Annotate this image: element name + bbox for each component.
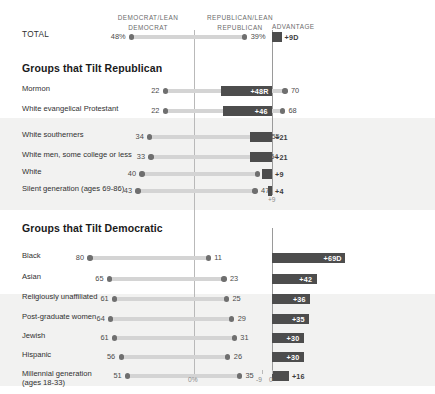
advantage-label: +9 <box>275 170 284 179</box>
republican-dot[interactable] <box>252 188 257 193</box>
democrat-dot[interactable] <box>135 188 140 193</box>
republican-value: 25 <box>233 294 241 303</box>
chart-row: Jewish6131+30 <box>0 331 435 345</box>
democrat-value: 80 <box>46 253 84 262</box>
chart-row: Millennial generation(ages 18-33)5135+16 <box>0 369 435 383</box>
republican-value: 23 <box>230 274 238 283</box>
democrat-value: 61 <box>71 333 109 342</box>
republican-value: 39% <box>251 32 266 41</box>
row-label: Mormon <box>22 84 50 93</box>
democrat-value: 43 <box>94 186 132 195</box>
republican-dot[interactable] <box>232 335 237 340</box>
advantage-label: +36 <box>293 295 306 304</box>
republican-value: 26 <box>234 352 242 361</box>
advantage-label: +9D <box>285 33 299 42</box>
democrat-dot[interactable] <box>119 354 124 359</box>
dumbbell-track <box>115 297 227 301</box>
republican-value: 70 <box>291 86 299 95</box>
republican-dot[interactable] <box>221 276 226 281</box>
dumbbell-track <box>150 135 266 139</box>
advantage-label: +46 <box>255 107 268 116</box>
chart-row: Asian6523+42 <box>0 272 435 286</box>
row-label: TOTAL <box>22 30 49 39</box>
row-label: Asian <box>22 272 41 281</box>
advantage-label: +42 <box>299 275 312 284</box>
democrat-value: 34 <box>106 132 144 141</box>
republican-dot[interactable] <box>280 108 285 113</box>
tick-label-advantage-zero: 0 <box>269 376 273 383</box>
chart-row: Religiously unaffiliated6125+36 <box>0 292 435 306</box>
democrat-dot[interactable] <box>87 255 92 260</box>
advantage-bar[interactable] <box>272 32 282 42</box>
dumbbell-track <box>128 374 240 378</box>
republican-value: 11 <box>214 253 222 262</box>
chart-row: White evangelical Protestant2268+46 <box>0 104 435 118</box>
advantage-bar[interactable] <box>272 371 289 381</box>
advantage-bar[interactable] <box>262 169 272 179</box>
row-label: White <box>22 167 41 176</box>
dumbbell-track <box>110 277 224 281</box>
chart-row: Post-graduate women6429+35 <box>0 312 435 326</box>
democrat-value: 40 <box>98 169 136 178</box>
democrat-dot[interactable] <box>139 171 144 176</box>
democrat-value: 64 <box>67 314 105 323</box>
republican-dot[interactable] <box>237 373 242 378</box>
chart-row: White southerners3455+21 <box>0 130 435 144</box>
democrat-value: 33 <box>107 152 145 161</box>
tickmark-advantage-zero <box>272 370 273 374</box>
row-label: Hispanic <box>22 350 51 359</box>
advantage-label: +4 <box>275 187 284 196</box>
republican-value: 29 <box>238 314 246 323</box>
republican-dot[interactable] <box>282 88 287 93</box>
democrat-dot[interactable] <box>112 296 117 301</box>
democrat-dot[interactable] <box>125 373 130 378</box>
democrat-dot[interactable] <box>107 276 112 281</box>
republican-value: 68 <box>288 106 296 115</box>
republican-dot[interactable] <box>224 296 229 301</box>
democrat-dot[interactable] <box>163 88 168 93</box>
advantage-label: +30 <box>287 353 300 362</box>
dumbbell-track <box>90 256 208 260</box>
row-label: White evangelical Protestant <box>22 104 118 113</box>
republican-dot[interactable] <box>206 255 211 260</box>
chart-row: Mormon2270+48R <box>0 84 435 98</box>
advantage-bar[interactable] <box>250 152 272 162</box>
advantage-label: +16 <box>292 372 305 381</box>
advantage-bar[interactable] <box>268 186 272 196</box>
democrat-value: 22 <box>121 86 159 95</box>
democrat-dot[interactable] <box>163 108 168 113</box>
dumbbell-track <box>151 155 264 159</box>
dumbbell-track <box>142 172 258 176</box>
advantage-bar[interactable] <box>250 132 272 142</box>
democrat-value: 65 <box>66 274 104 283</box>
democrat-value: 61 <box>71 294 109 303</box>
dumbbell-track <box>132 35 245 39</box>
row-label: Jewish <box>22 331 45 340</box>
row-label-sub: (ages 18-33) <box>22 378 92 387</box>
tick-label-advantage-neg9: -9 <box>256 376 262 383</box>
democrat-value: 48% <box>88 32 126 41</box>
republican-value: 31 <box>240 333 248 342</box>
republican-dot[interactable] <box>255 171 260 176</box>
advantage-label: +21 <box>275 153 288 162</box>
democrat-dot[interactable] <box>148 154 153 159</box>
row-label: White southerners <box>22 130 84 139</box>
tickmark-pct-zero <box>194 370 195 374</box>
section-title-democratic: Groups that Tilt Democratic <box>22 222 163 234</box>
republican-dot[interactable] <box>229 316 234 321</box>
republican-dot[interactable] <box>225 354 230 359</box>
chart-row: White4049+9 <box>0 167 435 181</box>
dumbbell-track <box>121 355 228 359</box>
advantage-label: +69D <box>324 254 342 263</box>
democrat-value: 56 <box>77 352 115 361</box>
chart-row: Hispanic5626+30 <box>0 350 435 364</box>
advantage-label: +48R <box>250 87 268 96</box>
democrat-dot[interactable] <box>129 34 134 39</box>
advantage-label: +30 <box>287 334 300 343</box>
democrat-dot[interactable] <box>112 335 117 340</box>
chart-row: Silent generation (ages 69-86)4347+4 <box>0 184 435 198</box>
democrat-value: 51 <box>84 371 122 380</box>
dumbbell-track <box>111 317 232 321</box>
republican-dot[interactable] <box>242 34 247 39</box>
republican-value: 35 <box>246 371 254 380</box>
